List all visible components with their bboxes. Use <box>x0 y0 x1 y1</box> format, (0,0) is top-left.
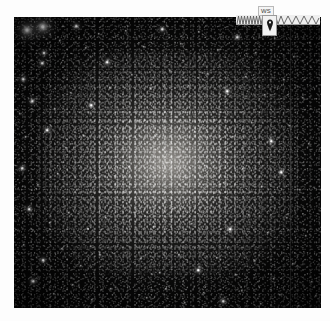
star-field-photograph[interactable] <box>14 17 321 308</box>
star-point <box>90 104 92 106</box>
star-point <box>197 269 199 271</box>
plate-seam-artifact <box>290 17 291 308</box>
star-point <box>31 100 33 102</box>
star-point <box>42 259 44 261</box>
star-point <box>21 167 23 169</box>
star-point <box>229 228 231 230</box>
map-pin-icon <box>266 19 273 32</box>
star-point <box>75 25 77 27</box>
star-point <box>26 29 29 32</box>
screenshot-canvas: WS <box>0 0 330 321</box>
measurement-widget[interactable]: WS <box>234 4 322 38</box>
star-point <box>28 208 30 210</box>
star-point <box>270 140 272 142</box>
star-point <box>43 52 45 54</box>
star-point <box>32 280 34 282</box>
star-point <box>161 28 163 30</box>
star-point <box>226 90 228 92</box>
star-point <box>222 300 224 302</box>
star-point <box>41 62 43 64</box>
zigzag-scale-strip[interactable] <box>236 15 320 25</box>
star-point <box>46 129 48 131</box>
star-point <box>280 171 282 173</box>
marker-callout-box[interactable] <box>262 15 277 36</box>
star-point <box>106 61 108 63</box>
star-speckle-cluster-core <box>38 50 298 275</box>
star-point <box>22 78 24 80</box>
